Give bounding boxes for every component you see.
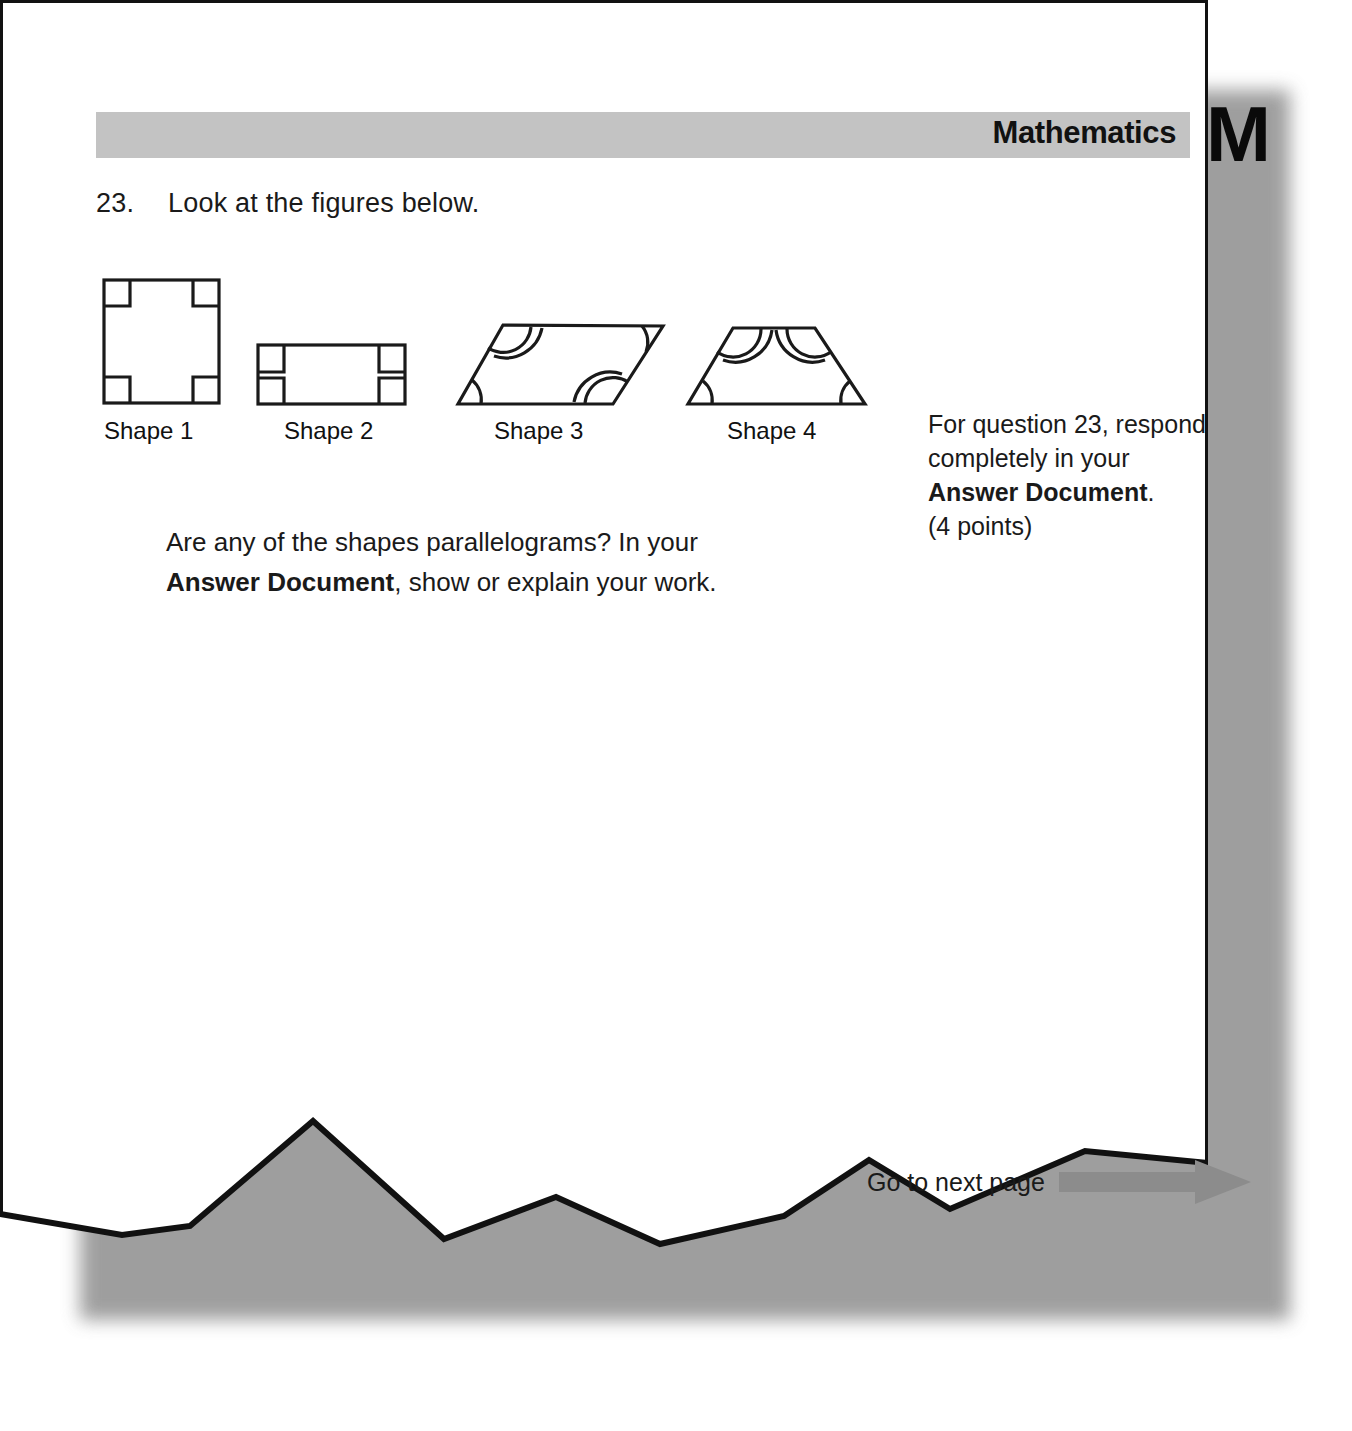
screenshot-root: Mathematics M 23. Look at the figures be… (0, 0, 1352, 1431)
subject-letter-badge: M (1206, 98, 1269, 170)
next-page-footer: Go to next page (867, 1160, 1251, 1204)
shape-3-parallelogram (458, 325, 663, 404)
side-note-period: . (1147, 478, 1154, 506)
shape-4-label: Shape 4 (727, 417, 816, 445)
side-note-points: (4 points) (928, 509, 1228, 543)
side-note-line-3: Answer Document. (928, 475, 1228, 509)
side-note: For question 23, respond completely in y… (928, 407, 1228, 543)
figure-group: Shape 1 Shape 2 Shape 3 Shape 4 (72, 272, 912, 452)
side-note-answer-document: Answer Document (928, 478, 1147, 506)
subject-header-band: Mathematics (96, 112, 1190, 158)
shapes-svg (72, 272, 912, 422)
shape-4-trapezoid (688, 328, 865, 404)
shape-1-label: Shape 1 (104, 417, 193, 445)
question-number: 23. (96, 188, 134, 219)
prompt-line-2-tail: , show or explain your work. (394, 567, 716, 597)
shape-2-rectangle (258, 345, 405, 404)
question-stem: Look at the figures below. (168, 188, 479, 219)
next-page-label: Go to next page (867, 1168, 1045, 1197)
prompt-line-1: Are any of the shapes parallelograms? In… (166, 522, 886, 562)
side-note-line-1: For question 23, respond (928, 407, 1228, 441)
shape-3-label: Shape 3 (494, 417, 583, 445)
subject-title: Mathematics (993, 115, 1176, 151)
prompt-answer-document: Answer Document (166, 567, 394, 597)
prompt-line-2: Answer Document, show or explain your wo… (166, 562, 886, 602)
shape-2-label: Shape 2 (284, 417, 373, 445)
side-note-line-2: completely in your (928, 441, 1228, 475)
right-arrow-icon (1059, 1160, 1251, 1204)
shape-1-square (104, 280, 219, 403)
question-prompt: Are any of the shapes parallelograms? In… (166, 522, 886, 602)
